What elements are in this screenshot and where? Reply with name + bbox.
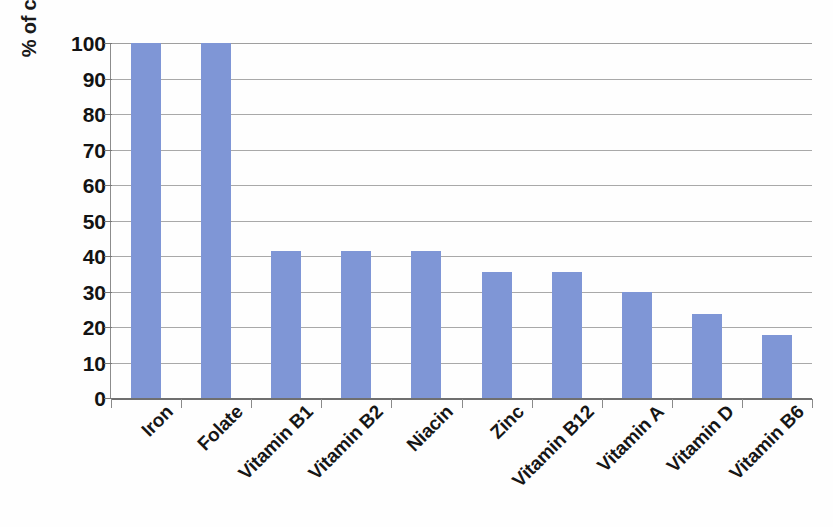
y-tick-label: 0 [56,388,106,409]
x-label-text: Niacin [403,401,458,456]
y-tick-mark [104,79,112,80]
y-tick-mark [104,221,112,222]
bar [131,43,161,398]
x-label-text: Vitamin A [593,401,669,477]
y-tick-mark [104,256,112,257]
x-label-text: Iron [137,401,177,441]
bar-chart: % of countries adding micronutrient 1009… [0,0,833,527]
y-tick-label: 70 [56,139,106,160]
y-tick-mark [104,150,112,151]
x-label-text: Folate [193,401,247,455]
plot-area [111,43,812,398]
y-tick-label: 20 [56,317,106,338]
y-tick-mark [104,327,112,328]
x-axis-category-labels: IronFolateVitamin B1Vitamin B2NiacinZinc… [111,401,812,527]
y-tick-label: 30 [56,281,106,302]
y-tick-label: 80 [56,104,106,125]
y-axis-title: % of countries adding micronutrient [12,0,46,72]
y-tick-mark [104,114,112,115]
y-tick-label: 40 [56,246,106,267]
y-tick-label: 50 [56,210,106,231]
y-tick-label: 10 [56,352,106,373]
y-tick-mark [104,363,112,364]
bar [201,43,231,398]
y-tick-label: 90 [56,68,106,89]
y-tick-label: 100 [56,33,106,54]
y-tick-mark [104,43,112,44]
bar [552,272,582,398]
x-label-text: Zinc [485,401,528,444]
y-tick-mark [104,185,112,186]
y-tick-label: 60 [56,175,106,196]
y-axis-tick-labels: 1009080706050403020100 [56,30,106,411]
y-tick-mark [104,292,112,293]
